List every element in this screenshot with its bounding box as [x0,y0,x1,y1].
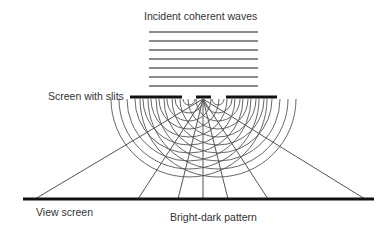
interference-ray [203,99,365,199]
interference-ray [138,99,203,199]
diffraction-arc [212,99,224,105]
diffraction-arc [183,99,195,105]
pattern-label: Bright-dark pattern [170,211,257,223]
diffraction-arc [119,99,259,169]
interference-ray [203,99,268,199]
view-screen-label: View screen [36,206,93,218]
double-slit-diagram [0,0,391,233]
slit-screen-label: Screen with slits [48,90,124,102]
diffraction-arc [111,99,267,177]
diffraction-arc [140,99,296,177]
interference-ray [35,99,203,199]
incident-waves-label: Incident coherent waves [144,10,257,22]
